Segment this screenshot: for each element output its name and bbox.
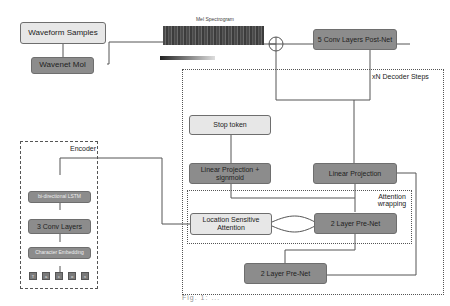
char-embedding-label: Character Embedding [35,250,84,256]
location-sensitive-attention-label: Location Sensitive Attention [191,216,271,231]
token: a [42,272,50,280]
postnet-box: 5 Conv Layers Post-Net [313,29,397,50]
prenet-inner-box: 2 Layer Pre-Net [314,213,397,234]
linear-projection-sigmoid-box: Linear Projection + signmoid [189,163,271,184]
bilstm-label: bi-directional LSTM [38,194,81,200]
encoder-container [20,141,98,289]
prenet-outer-label: 2 Layer Pre-Net [261,270,310,278]
waveform-samples-label: Waveform Samples [28,29,98,38]
conv-layers-box: 3 Conv Layers [28,219,91,234]
linear-projection-label: Linear Projection [329,170,382,178]
prenet-inner-label: 2 Layer Pre-Net [331,220,380,228]
spectrogram-colorbar [160,56,215,60]
token: o [68,272,76,280]
figure-caption: Fig. 1: ... [182,294,220,301]
wavenet-mol-box: Wavenet Mol [31,57,94,74]
location-sensitive-attention-box: Location Sensitive Attention [190,213,272,235]
conv-layers-label: 3 Conv Layers [37,223,82,231]
prenet-outer-box: 2 Layer Pre-Net [244,263,327,284]
decoder-steps-label: xN Decoder Steps [372,73,429,80]
char-embedding-box: Character Embedding [28,247,91,259]
postnet-label: 5 Conv Layers Post-Net [318,36,392,44]
waveform-samples-box: Waveform Samples [20,22,106,44]
wavenet-mol-label: Wavenet Mol [39,61,85,70]
token: T [29,272,37,280]
mel-spectrogram-image [163,26,264,45]
attention-wrapping-label: Attention wrapping [372,193,412,207]
linear-projection-box: Linear Projection [313,163,397,184]
stop-token-box: Stop token [189,115,271,135]
encoder-label: Encoder [70,145,96,152]
linear-projection-sigmoid-label: Linear Projection + signmoid [190,166,270,181]
token: s [81,272,89,280]
stop-token-label: Stop token [213,121,246,129]
token: c [55,272,63,280]
mel-spectrogram-title: Mel Spectrogram [165,16,265,22]
bilstm-box: bi-directional LSTM [28,191,91,203]
